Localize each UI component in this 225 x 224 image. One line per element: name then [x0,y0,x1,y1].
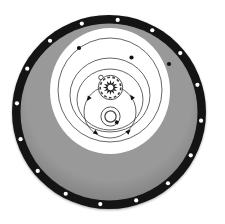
bolt-hole [36,169,40,173]
planet-gear-icon [98,75,122,100]
bolt-hole [18,137,22,141]
position-dot [129,55,133,59]
bolt-hole [150,28,154,32]
flywheel-technical-drawing [0,0,225,224]
bolt-hole [166,181,170,185]
crank-hub-icon [101,107,120,126]
diagram-canvas [0,0,225,224]
bolt-hole [98,202,102,206]
bolt-hole [80,21,84,25]
position-dot [167,62,171,66]
bolt-hole [15,101,19,105]
bolt-hole [48,39,52,43]
bolt-hole [189,153,193,157]
bolt-hole [25,67,29,71]
position-dot [77,46,81,50]
bolt-hole [199,119,203,123]
bolt-hole [64,192,68,196]
bolt-hole [134,198,138,202]
hub-inner-ring [105,111,116,122]
bolt-hole [195,83,199,87]
gear-hub [107,84,114,91]
bolt-hole [178,51,182,55]
bolt-hole [116,18,120,22]
